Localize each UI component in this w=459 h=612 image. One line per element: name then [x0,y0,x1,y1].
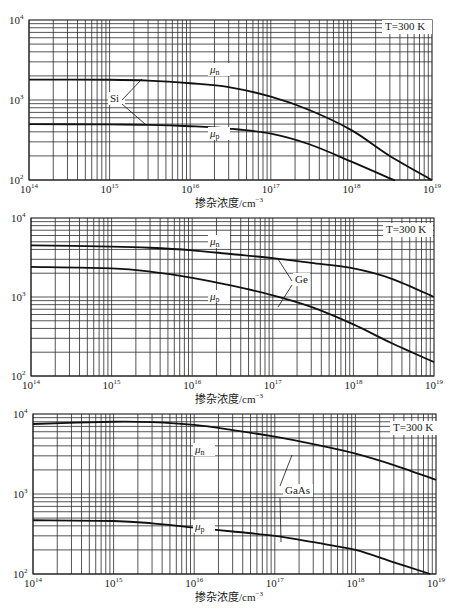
y-tick-label: 104 [9,13,24,26]
x-tick-label: 1016 [181,182,200,195]
curve-mu-p [33,520,430,574]
x-tick-label: 1019 [425,378,444,391]
x-tick-label: 1015 [105,576,124,589]
leader-line [122,79,142,100]
x-tick-label: 1014 [22,378,41,391]
x-tick-label: 1017 [264,378,283,391]
y-tick-label: 103 [9,93,24,106]
x-axis-label: 掺杂浓度/cm−3 [195,590,263,603]
curve-mu-n [31,245,434,297]
x-tick-label: 1015 [101,182,120,195]
chart-si: μnμpT=300 KSi104103102101410151016101710… [9,13,442,209]
leader-line [280,455,292,486]
y-tick-label: 104 [11,211,26,224]
grid [29,20,432,180]
temperature-annotation: T=300 K [393,421,433,433]
y-tick-label: 103 [13,487,28,500]
material-label: Si [110,92,119,104]
material-label: GaAs [285,484,310,496]
y-tick-label: 103 [11,290,26,303]
x-tick-label: 1016 [185,576,204,589]
x-tick-label: 1017 [266,576,285,589]
leader-line [278,259,292,281]
x-tick-label: 1014 [20,182,39,195]
x-axis-label: 掺杂浓度/cm−3 [195,196,263,209]
temperature-annotation: T=300 K [386,223,426,235]
grid [31,218,434,376]
leader-line [278,285,292,307]
leader-line [280,498,281,542]
x-tick-label: 1018 [346,576,365,589]
x-tick-label: 1019 [427,576,446,589]
chart-canvas: μnμpT=300 KSi104103102101410151016101710… [0,0,459,612]
x-tick-label: 1014 [24,576,43,589]
x-tick-label: 1015 [103,378,122,391]
chart-gaas: μnμpT=300 KGaAs1041031021014101510161017… [13,407,446,603]
material-label: Ge [295,273,308,285]
temperature-annotation: T=300 K [385,20,425,32]
figure: μnμpT=300 KSi104103102101410151016101710… [0,0,459,612]
chart-ge: μnμpT=300 KGe104103102101410151016101710… [11,211,444,405]
curve-mu-n [29,80,432,180]
x-tick-label: 1016 [183,378,202,391]
grid [33,414,436,574]
x-axis-label: 掺杂浓度/cm−3 [195,392,263,405]
x-tick-label: 1018 [344,378,363,391]
x-tick-label: 1019 [423,182,442,195]
curve-mu-n [33,422,436,480]
x-tick-label: 1018 [342,182,361,195]
y-tick-label: 104 [13,407,28,420]
x-tick-label: 1017 [262,182,281,195]
